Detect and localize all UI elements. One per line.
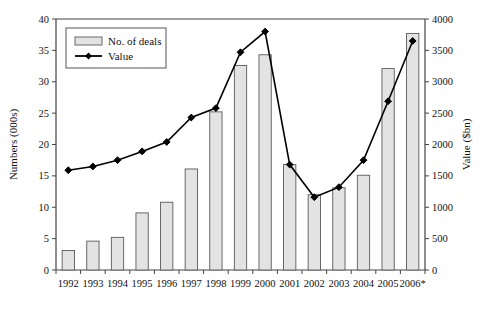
y-axis-left-tick-label: 30 <box>39 76 50 87</box>
bar-2006 <box>407 33 419 270</box>
bar-1993 <box>87 241 99 270</box>
y-axis-left-tick-label: 15 <box>39 170 50 181</box>
y-axis-left-tick-label: 25 <box>39 108 50 119</box>
x-axis-tick-label: 1993 <box>82 278 103 289</box>
bar-2002 <box>308 195 320 270</box>
y-axis-left-title: Numbers (000s) <box>7 109 20 181</box>
bar-1999 <box>234 65 246 270</box>
bar-2000 <box>259 55 271 270</box>
y-axis-left-tick-label: 20 <box>39 139 50 150</box>
legend-bar-swatch <box>75 37 102 45</box>
legend-label-value: Value <box>108 50 133 62</box>
y-axis-left-tick-label: 5 <box>44 233 49 244</box>
combo-chart: 0510152025303540050010001500200025003000… <box>0 0 483 309</box>
y-axis-right-tick-label: 0 <box>432 265 437 276</box>
x-axis-tick-label: 2003 <box>328 278 349 289</box>
bar-1994 <box>111 237 123 270</box>
bar-2004 <box>357 175 369 270</box>
y-axis-left-tick-label: 10 <box>39 202 50 213</box>
y-axis-right-tick-label: 500 <box>432 233 448 244</box>
x-axis-tick-label: 1996 <box>156 278 177 289</box>
y-axis-left-tick-label: 40 <box>39 14 50 25</box>
legend-box <box>66 28 166 68</box>
y-axis-right-title: Value ($bn) <box>460 118 473 170</box>
bar-2003 <box>333 188 345 270</box>
bar-1992 <box>62 251 74 270</box>
bar-1997 <box>185 169 197 270</box>
x-axis-tick-label: 2000 <box>255 278 276 289</box>
x-axis-tick-label: 1995 <box>132 278 153 289</box>
y-axis-right-tick-label: 1000 <box>432 202 453 213</box>
x-axis-tick-label: 2005 <box>378 278 399 289</box>
x-axis-tick-label: 1992 <box>58 278 79 289</box>
x-axis-tick-label: 1997 <box>181 278 202 289</box>
y-axis-right-tick-label: 2500 <box>432 108 453 119</box>
value-marker-1998 <box>213 105 220 112</box>
chart-container: 0510152025303540050010001500200025003000… <box>0 0 483 309</box>
y-axis-right-tick-label: 1500 <box>432 170 453 181</box>
x-axis-tick-label: 1998 <box>205 278 226 289</box>
y-axis-left-tick-label: 35 <box>39 45 50 56</box>
y-axis-left-tick-label: 0 <box>44 265 49 276</box>
x-axis-tick-label: 2001 <box>279 278 300 289</box>
bar-1995 <box>136 213 148 270</box>
value-marker-1994 <box>114 157 121 164</box>
bar-1996 <box>161 202 173 270</box>
value-marker-1995 <box>139 148 146 155</box>
x-axis-tick-label: 2002 <box>304 278 325 289</box>
y-axis-right-tick-label: 2000 <box>432 139 453 150</box>
x-axis-tick-label: 2004 <box>353 278 375 289</box>
y-axis-right-tick-label: 3000 <box>432 76 453 87</box>
value-marker-1992 <box>65 167 72 174</box>
x-axis-tick-label: 1999 <box>230 278 251 289</box>
legend-label-no-of-deals: No. of deals <box>108 35 161 47</box>
bar-2001 <box>284 165 296 270</box>
x-axis-tick-label: 2006* <box>400 278 426 289</box>
value-marker-1993 <box>90 163 97 170</box>
bar-1998 <box>210 112 222 270</box>
y-axis-right-tick-label: 4000 <box>432 14 453 25</box>
y-axis-right-tick-label: 3500 <box>432 45 453 56</box>
x-axis-tick-label: 1994 <box>107 278 129 289</box>
